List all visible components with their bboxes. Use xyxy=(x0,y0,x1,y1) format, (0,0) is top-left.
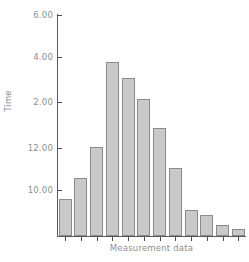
y-axis-tick-label-wrap: 4.00 xyxy=(0,52,53,63)
x-axis-title: Measurement data xyxy=(57,243,246,253)
x-axis-tick xyxy=(144,237,145,241)
x-axis-tick xyxy=(207,237,208,241)
bar xyxy=(122,78,135,236)
x-axis-tick xyxy=(97,237,98,241)
y-axis-tick-label: 2.00 xyxy=(7,97,53,107)
x-axis-tick xyxy=(65,237,66,241)
x-axis-tick xyxy=(160,237,161,241)
bar xyxy=(137,99,150,236)
x-axis-tick xyxy=(128,237,129,241)
y-axis-tick-label-wrap: 10.00 xyxy=(0,185,53,196)
x-axis-tick xyxy=(238,237,239,241)
y-axis-tick-label: 10.00 xyxy=(7,185,53,195)
bar-series xyxy=(57,10,246,236)
bar xyxy=(106,62,119,236)
y-axis-tick-label: 4.00 xyxy=(7,52,53,62)
bar-chart: 6.004.002.0012.0010.00 Time Measurement … xyxy=(0,0,249,262)
bar xyxy=(169,168,182,236)
x-axis-tick xyxy=(81,237,82,241)
x-axis-tick xyxy=(223,237,224,241)
bar xyxy=(216,225,229,236)
y-axis-tick-label-wrap: 12.00 xyxy=(0,143,53,154)
y-axis-title: Time xyxy=(3,81,13,121)
bar xyxy=(185,210,198,236)
bar xyxy=(59,199,72,236)
y-axis-tick-label: 12.00 xyxy=(7,143,53,153)
bar xyxy=(153,128,166,236)
x-axis-tick xyxy=(175,237,176,241)
x-axis-line xyxy=(57,236,246,237)
y-axis-tick-label: 6.00 xyxy=(7,10,53,20)
bar xyxy=(200,215,213,236)
x-axis-tick xyxy=(112,237,113,241)
x-axis-tick xyxy=(191,237,192,241)
bar xyxy=(90,147,103,236)
y-axis-tick-label-wrap: 6.00 xyxy=(0,10,53,21)
bar xyxy=(232,229,245,236)
bar xyxy=(74,178,87,236)
